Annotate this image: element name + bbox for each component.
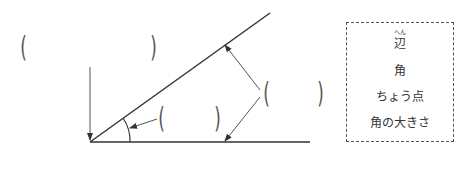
sides-blank-close: ) bbox=[317, 80, 324, 108]
angle-blank-open: ( bbox=[158, 105, 165, 133]
word-bank-item-chouten: ちょう点 bbox=[347, 87, 453, 104]
word-bank-item-kaku: 角 bbox=[347, 61, 453, 78]
angle-blank-close: ) bbox=[214, 105, 221, 133]
angle-arrow bbox=[130, 119, 157, 128]
vertex-blank-open: ( bbox=[20, 34, 27, 62]
word-bank-item-hen: 辺 bbox=[347, 34, 453, 51]
sides-blank-open: ( bbox=[263, 80, 270, 108]
angle-arc bbox=[123, 118, 130, 142]
bottom-side-arrow bbox=[225, 97, 260, 141]
word-bank-item-kaku-no-ookisa: 角の大きさ bbox=[347, 113, 453, 130]
word-bank: へん 辺 角 ちょう点 角の大きさ bbox=[346, 22, 454, 142]
vertex-blank-close: ) bbox=[150, 34, 157, 62]
upper-side-line bbox=[90, 13, 270, 142]
upper-side-arrow bbox=[225, 45, 260, 90]
